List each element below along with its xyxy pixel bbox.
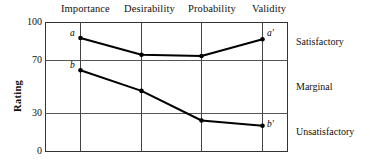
series-a-point-1 (139, 53, 144, 58)
series-b-line (81, 70, 263, 126)
series-a-point-2 (199, 54, 204, 59)
series-b-point-0 (78, 68, 83, 73)
series-a-point-3 (260, 37, 265, 42)
series-b-point-2 (199, 118, 204, 123)
rating-line-chart: Importance Desirability Probability Vali… (0, 0, 370, 165)
chart-canvas (0, 0, 370, 165)
series-b-point-1 (139, 89, 144, 94)
series-a-point-0 (78, 36, 83, 41)
series-b-point-3 (260, 123, 265, 128)
series-a-line (81, 38, 263, 56)
